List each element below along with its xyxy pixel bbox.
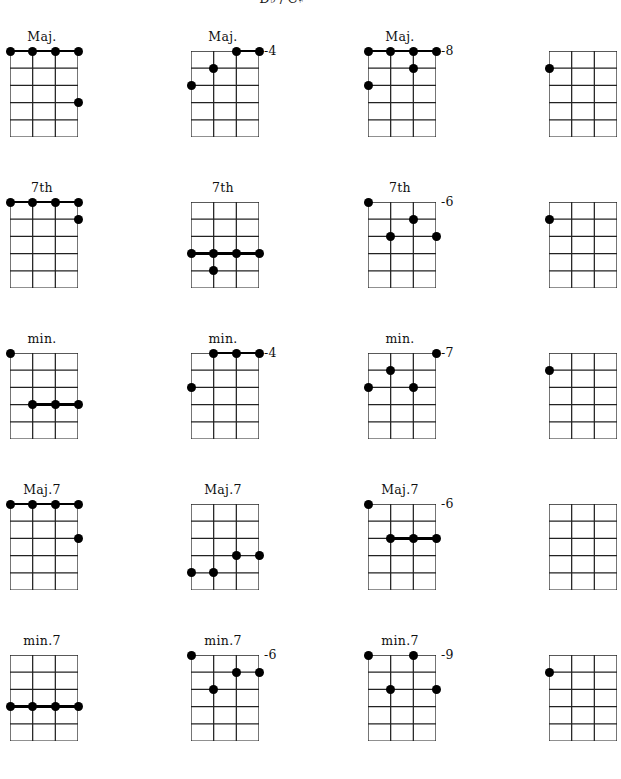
finger-dot bbox=[232, 47, 241, 56]
fretboard-grid bbox=[10, 51, 78, 137]
barre-line bbox=[10, 705, 78, 707]
chord-name-label: min.7 bbox=[183, 634, 263, 648]
fretboard-grid bbox=[10, 202, 78, 288]
chord-row: Maj.Maj.-4Maj.-8 bbox=[0, 30, 564, 181]
chord-diagram-cell[interactable]: Maj.-8 bbox=[360, 30, 478, 180]
fretboard-diagram bbox=[10, 504, 78, 590]
finger-dot bbox=[545, 668, 554, 677]
finger-dot bbox=[432, 685, 441, 694]
finger-dot bbox=[386, 47, 395, 56]
fretboard-grid bbox=[191, 51, 259, 137]
finger-dot bbox=[364, 198, 373, 207]
chord-diagram-cell[interactable]: min.7 bbox=[2, 634, 120, 779]
barre-line bbox=[10, 503, 78, 505]
fretboard-grid bbox=[549, 202, 617, 288]
finger-dot bbox=[187, 249, 196, 258]
finger-dot bbox=[51, 702, 60, 711]
finger-dot bbox=[187, 81, 196, 90]
flat-symbol: ♭ bbox=[270, 0, 277, 6]
fretboard-grid bbox=[191, 655, 259, 741]
fret-position-label: -9 bbox=[441, 649, 454, 661]
chord-diagram-cell[interactable] bbox=[541, 483, 621, 633]
finger-dot bbox=[545, 366, 554, 375]
fretboard-diagram bbox=[549, 202, 617, 288]
finger-dot bbox=[187, 568, 196, 577]
fretboard-diagram bbox=[368, 504, 436, 590]
fretboard-diagram bbox=[368, 202, 436, 288]
chord-diagram-cell[interactable]: Maj.7 bbox=[183, 483, 301, 633]
fretboard-grid bbox=[368, 655, 436, 741]
chord-name-label: 7th bbox=[183, 181, 263, 195]
chord-name-label: min. bbox=[2, 332, 82, 346]
finger-dot bbox=[51, 47, 60, 56]
finger-dot bbox=[6, 500, 15, 509]
chord-row: min.7min.7-6min.7-9 bbox=[0, 634, 564, 779]
chord-diagram-cell[interactable]: min.7-6 bbox=[183, 634, 301, 779]
fretboard-grid bbox=[368, 353, 436, 439]
chord-name-label: Maj.7 bbox=[2, 483, 82, 497]
finger-dot bbox=[364, 81, 373, 90]
chord-diagram-cell[interactable] bbox=[541, 634, 621, 779]
fretboard-diagram bbox=[10, 655, 78, 741]
finger-dot bbox=[74, 702, 83, 711]
finger-dot bbox=[6, 702, 15, 711]
title-alt-root: C bbox=[288, 0, 298, 6]
fretboard-grid bbox=[191, 202, 259, 288]
finger-dot bbox=[386, 534, 395, 543]
finger-dot bbox=[432, 349, 441, 358]
finger-dot bbox=[74, 400, 83, 409]
fretboard-grid bbox=[10, 504, 78, 590]
chord-diagram-cell[interactable] bbox=[541, 30, 621, 180]
fretboard-grid bbox=[368, 504, 436, 590]
chord-diagram-cell[interactable]: 7th bbox=[2, 181, 120, 331]
finger-dot bbox=[386, 366, 395, 375]
chord-diagram-cell[interactable]: min. bbox=[2, 332, 120, 482]
chord-row: 7th7th7th-6 bbox=[0, 181, 564, 332]
fretboard-grid bbox=[549, 504, 617, 590]
fret-position-label: -6 bbox=[441, 196, 454, 208]
finger-dot bbox=[6, 47, 15, 56]
fret-position-label: -6 bbox=[264, 649, 277, 661]
finger-dot bbox=[255, 47, 264, 56]
chord-diagram-cell[interactable]: Maj.7 bbox=[2, 483, 120, 633]
fretboard-diagram bbox=[368, 51, 436, 137]
finger-dot bbox=[74, 198, 83, 207]
barre-line bbox=[368, 50, 436, 52]
finger-dot bbox=[255, 551, 264, 560]
finger-dot bbox=[409, 215, 418, 224]
finger-dot bbox=[409, 651, 418, 660]
title-separator: / bbox=[277, 0, 288, 6]
fretboard-grid bbox=[191, 504, 259, 590]
finger-dot bbox=[545, 64, 554, 73]
chord-name-label: Maj. bbox=[2, 30, 82, 44]
finger-dot bbox=[28, 47, 37, 56]
chord-name-label: min. bbox=[183, 332, 263, 346]
fretboard-grid bbox=[549, 51, 617, 137]
finger-dot bbox=[51, 400, 60, 409]
finger-dot bbox=[232, 551, 241, 560]
fretboard-grid bbox=[191, 353, 259, 439]
finger-dot bbox=[232, 249, 241, 258]
chord-diagram-cell[interactable]: min.-4 bbox=[183, 332, 301, 482]
fretboard-diagram bbox=[191, 202, 259, 288]
chord-diagram-cell[interactable]: min.-7 bbox=[360, 332, 478, 482]
chord-diagram-cell[interactable]: 7th bbox=[183, 181, 301, 331]
finger-dot bbox=[364, 500, 373, 509]
chord-diagram-cell[interactable] bbox=[541, 332, 621, 482]
finger-dot bbox=[255, 668, 264, 677]
chord-diagram-cell[interactable]: Maj.-4 bbox=[183, 30, 301, 180]
chord-diagram-cell[interactable]: min.7-9 bbox=[360, 634, 478, 779]
chord-diagram-cell[interactable]: Maj.7-6 bbox=[360, 483, 478, 633]
finger-dot bbox=[409, 64, 418, 73]
barre-line bbox=[10, 50, 78, 52]
finger-dot bbox=[209, 685, 218, 694]
chord-diagram-cell[interactable]: Maj. bbox=[2, 30, 120, 180]
fretboard-diagram bbox=[549, 51, 617, 137]
title-root: D bbox=[259, 0, 270, 6]
chord-name-label: Maj.7 bbox=[183, 483, 263, 497]
finger-dot bbox=[6, 198, 15, 207]
chord-diagram-cell[interactable] bbox=[541, 181, 621, 331]
chord-name-label: min.7 bbox=[2, 634, 82, 648]
chord-diagram-cell[interactable]: 7th-6 bbox=[360, 181, 478, 331]
finger-dot bbox=[409, 534, 418, 543]
